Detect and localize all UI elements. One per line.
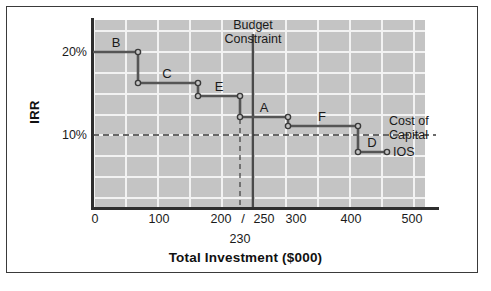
y-tick-20: 20% (43, 45, 87, 59)
point-label-B: B (112, 35, 121, 50)
point-label-C: C (162, 66, 171, 81)
point-label-F: F (318, 109, 326, 124)
x-tick-250: 250 (254, 212, 275, 226)
x-tick-100: 100 (149, 212, 170, 226)
budget-constraint-label-line2: Constraint (225, 32, 282, 46)
y-tick-10: 10% (43, 128, 87, 142)
cost-of-capital-label-line1: Cost of (389, 114, 429, 128)
point-label-E: E (215, 79, 224, 94)
point-label-A: A (260, 100, 269, 115)
x-tick-230: 230 (230, 232, 251, 246)
x-axis-title: Total Investment ($000) (0, 250, 491, 265)
y-axis-title: IRR (27, 100, 42, 123)
x-tick-300: 300 (286, 212, 307, 226)
x-tick-0: 0 (92, 212, 99, 226)
chart-figure: 20% 10% 0 100 200 / 250 300 400 500 230 … (0, 0, 491, 291)
x-tick-200: 200 (211, 212, 232, 226)
cost-of-capital-label-line2: Capital (389, 128, 429, 142)
x-tick-slash: / (241, 211, 245, 226)
x-tick-400: 400 (341, 212, 362, 226)
cost-of-capital-label: Cost of Capital (389, 114, 429, 142)
ios-series-label: IOS (393, 145, 415, 159)
point-label-D: D (367, 135, 376, 150)
x-tick-500: 500 (402, 212, 423, 226)
budget-constraint-label: Budget Constraint (225, 18, 282, 46)
budget-constraint-label-line1: Budget (225, 18, 282, 32)
